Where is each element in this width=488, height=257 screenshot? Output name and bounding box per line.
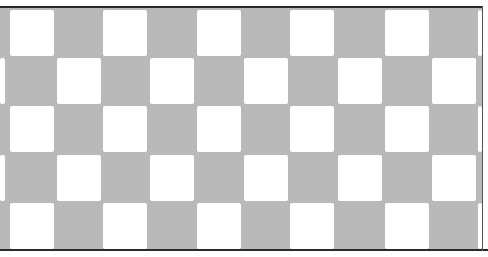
white-square bbox=[103, 203, 147, 249]
white-square bbox=[10, 10, 54, 56]
white-square bbox=[385, 203, 429, 249]
white-square bbox=[385, 106, 429, 152]
white-square bbox=[10, 106, 54, 152]
white-square bbox=[197, 203, 241, 249]
white-square bbox=[385, 10, 429, 56]
white-square bbox=[244, 155, 288, 201]
white-square bbox=[57, 58, 101, 104]
photo bbox=[0, 0, 488, 257]
white-square bbox=[197, 10, 241, 56]
white-square bbox=[338, 58, 382, 104]
white-square bbox=[10, 203, 54, 249]
white-square bbox=[197, 106, 241, 152]
white-square bbox=[290, 203, 334, 249]
white-square bbox=[103, 106, 147, 152]
right-frame-line bbox=[482, 6, 483, 251]
white-square bbox=[244, 58, 288, 104]
white-square bbox=[432, 58, 476, 104]
white-square bbox=[57, 155, 101, 201]
top-frame-line bbox=[0, 6, 483, 8]
white-square bbox=[338, 155, 382, 201]
white-square bbox=[150, 58, 194, 104]
bottom-frame-line bbox=[0, 249, 488, 251]
white-square bbox=[290, 10, 334, 56]
white-square bbox=[0, 155, 5, 201]
white-square bbox=[103, 10, 147, 56]
white-square bbox=[0, 58, 5, 104]
white-square bbox=[432, 155, 476, 201]
white-square bbox=[150, 155, 194, 201]
white-square bbox=[290, 106, 334, 152]
